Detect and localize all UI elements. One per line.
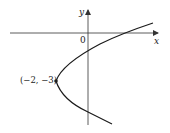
y-axis-label: y [79, 8, 84, 17]
vertex-label: (−2, −3) [20, 76, 57, 85]
plot-canvas [0, 0, 170, 133]
parabola-figure: y 0 x (−2, −3) [0, 0, 170, 133]
origin-label: 0 [80, 36, 86, 45]
x-axis-label: x [154, 37, 159, 46]
parabola-curve [56, 23, 153, 124]
